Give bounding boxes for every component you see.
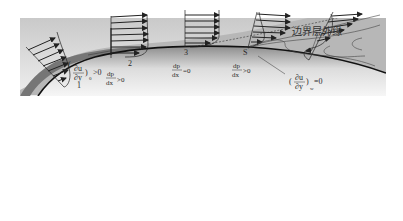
svg-text:∂y: ∂y: [295, 82, 303, 91]
svg-text:dp: dp: [233, 62, 241, 70]
svg-text:): ): [306, 77, 309, 86]
station-3-label: 3: [184, 48, 188, 57]
svg-text:=0: =0: [183, 67, 191, 75]
svg-text:∂u: ∂u: [295, 73, 303, 82]
svg-text:dx: dx: [106, 79, 114, 87]
svg-text:>0: >0: [243, 67, 251, 75]
svg-text:(: (: [68, 60, 71, 69]
station-1-label: 1: [77, 81, 81, 90]
svg-text:w: w: [310, 86, 314, 91]
svg-text:): ): [85, 68, 88, 77]
svg-text:=0: =0: [314, 77, 323, 86]
svg-text:∂u: ∂u: [74, 64, 82, 73]
boundary-layer-diagram: 边界层外缘 ( ∂u ∂y ) 0 >0 1 2 3 S dp dx >0 dp…: [0, 0, 403, 221]
svg-text:dp: dp: [173, 62, 181, 70]
svg-text:>0: >0: [93, 68, 102, 77]
svg-text:dx: dx: [232, 71, 240, 79]
station-2-label: 2: [128, 59, 132, 68]
svg-text:(: (: [289, 77, 292, 86]
svg-text:dx: dx: [172, 71, 180, 79]
svg-text:dp: dp: [107, 70, 115, 78]
svg-text:>0: >0: [117, 76, 125, 84]
station-s-label: S: [243, 48, 247, 57]
outer-edge-label: 边界层外缘: [292, 25, 342, 37]
